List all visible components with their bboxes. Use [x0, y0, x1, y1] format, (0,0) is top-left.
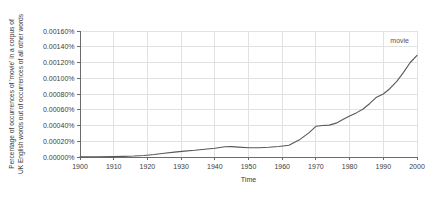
x-tick-label: 2000 — [409, 163, 425, 170]
x-tick-label: 1980 — [342, 163, 358, 170]
y-tick-label: 0.00100% — [43, 75, 75, 82]
y-tick-label: 0.00060% — [43, 106, 75, 113]
x-tick-label: 1910 — [106, 163, 122, 170]
line-chart: 0.00000%0.00020%0.00040%0.00060%0.00080%… — [0, 0, 443, 197]
x-tick-label: 1970 — [308, 163, 324, 170]
y-tick-label: 0.00040% — [43, 122, 75, 129]
x-axis-title: Time — [241, 176, 256, 183]
x-tick-label: 1930 — [173, 163, 189, 170]
tick-layer: 0.00000%0.00020%0.00040%0.00060%0.00080%… — [43, 28, 425, 170]
y-axis-title-line1: Percentage of occurrences of 'movie' in … — [8, 19, 16, 169]
chart-page: 0.00000%0.00020%0.00040%0.00060%0.00080%… — [0, 0, 443, 197]
y-tick-label: 0.00120% — [43, 59, 75, 66]
x-tick-label: 1990 — [376, 163, 392, 170]
x-tick-label: 1960 — [274, 163, 290, 170]
y-tick-label: 0.00020% — [43, 138, 75, 145]
x-tick-label: 1900 — [72, 163, 88, 170]
grid-layer — [80, 31, 417, 157]
series-label-movie: movie — [390, 37, 409, 44]
y-tick-label: 0.00160% — [43, 28, 75, 35]
y-tick-label: 0.00000% — [43, 154, 75, 161]
x-tick-label: 1950 — [241, 163, 257, 170]
y-tick-label: 0.00080% — [43, 91, 75, 98]
y-tick-label: 0.00140% — [43, 43, 75, 50]
x-tick-label: 1940 — [207, 163, 223, 170]
x-tick-label: 1920 — [140, 163, 156, 170]
y-axis-title-line2: UK English words out of occurrences of a… — [17, 13, 25, 174]
